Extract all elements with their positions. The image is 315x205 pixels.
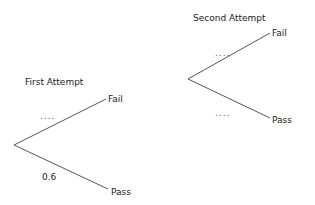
first-fail-branch (14, 99, 106, 145)
second-attempt-title: Second Attempt (193, 13, 266, 23)
second-pass-probability: .... (215, 109, 230, 117)
first-pass-branch (14, 145, 108, 189)
second-fail-probability: .... (215, 49, 230, 57)
first-fail-probability: .... (40, 112, 55, 120)
first-fail-label: Fail (108, 94, 123, 104)
first-pass-probability: 0.6 (42, 172, 56, 182)
first-attempt-title: First Attempt (25, 77, 83, 87)
second-pass-label: Pass (272, 115, 292, 125)
first-pass-label: Pass (111, 187, 131, 197)
second-fail-label: Fail (272, 28, 287, 38)
